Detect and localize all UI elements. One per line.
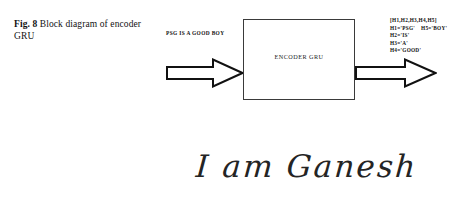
right-block-arrow-icon (355, 58, 437, 92)
hidden-state-vector: [H1,H2,H3,H4,H5] (390, 17, 447, 25)
encoder-input-label: PSG IS A GOOD BOY (166, 30, 224, 36)
hidden-state-row: H1='PSG'H5='BOY' (390, 25, 447, 33)
figure-8-block-diagram: Fig. 8 Block diagram of encoder GRU PSG … (0, 0, 454, 120)
hidden-state-h4: H4='GOOD' (390, 47, 447, 55)
encoder-gru-box-label: ENCODER GRU (244, 53, 354, 60)
figure-8-number: Fig. 8 (14, 19, 37, 29)
handwriting-sample-text: I am Ganesh (195, 148, 419, 184)
hidden-state-h5: H5='BOY' (421, 25, 447, 31)
hidden-state-h3: H3='A' (390, 40, 447, 48)
hidden-state-h2: H2='IS' (390, 32, 447, 40)
figure-8-caption: Fig. 8 Block diagram of encoder GRU (14, 19, 149, 42)
hidden-state-h1: H1='PSG' (390, 25, 415, 31)
right-block-arrow-icon (166, 58, 244, 92)
encoder-output-hidden-states: [H1,H2,H3,H4,H5] H1='PSG'H5='BOY' H2='IS… (390, 17, 447, 55)
encoder-gru-box: ENCODER GRU (243, 19, 355, 100)
figure-9-handwriting: Fig. 9 Output of human handwriting I am … (0, 120, 454, 207)
